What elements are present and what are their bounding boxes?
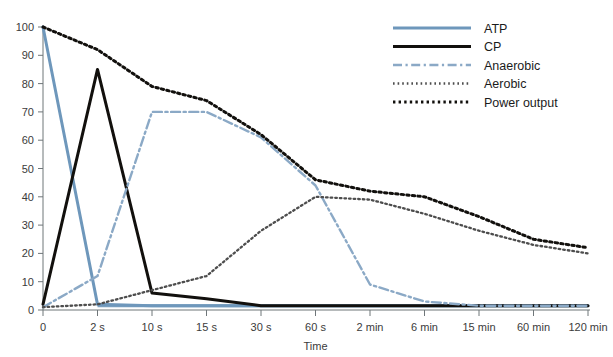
- y-axis-ticks: 0102030405060708090100: [16, 21, 43, 316]
- x-axis-title: Time: [303, 340, 327, 352]
- y-tick-label: 70: [22, 106, 34, 118]
- x-tick-label: 10 s: [142, 321, 163, 333]
- x-tick-label: 60 min: [517, 321, 550, 333]
- y-tick-label: 30: [22, 219, 34, 231]
- y-tick-label: 0: [28, 304, 34, 316]
- legend-label-aerobic: Aerobic: [484, 77, 526, 91]
- y-tick-label: 40: [22, 191, 34, 203]
- legend-label-anaerobic: Anaerobic: [484, 59, 540, 73]
- x-tick-label: 60 s: [305, 321, 326, 333]
- x-axis-ticks: 02 s10 s15 s30 s60 s2 min6 min15 min60 m…: [40, 310, 608, 333]
- x-tick-label: 120 min: [568, 321, 607, 333]
- y-tick-label: 10: [22, 276, 34, 288]
- chart-legend: ATPCPAnaerobicAerobicPower output: [393, 22, 558, 110]
- energy-systems-chart: 0102030405060708090100 02 s10 s15 s30 s6…: [0, 0, 613, 357]
- y-tick-label: 50: [22, 163, 34, 175]
- series-line-aerobic: [43, 197, 588, 307]
- y-tick-label: 100: [16, 21, 34, 33]
- y-tick-label: 20: [22, 247, 34, 259]
- x-tick-label: 6 min: [411, 321, 438, 333]
- legend-label-atp: ATP: [484, 22, 507, 36]
- y-tick-label: 80: [22, 78, 34, 90]
- x-tick-label: 0: [40, 321, 46, 333]
- x-tick-label: 2 min: [357, 321, 384, 333]
- x-tick-label: 15 min: [462, 321, 495, 333]
- x-tick-label: 30 s: [251, 321, 272, 333]
- x-tick-label: 2 s: [90, 321, 105, 333]
- y-tick-label: 90: [22, 49, 34, 61]
- legend-label-power-output: Power output: [484, 96, 558, 110]
- y-tick-label: 60: [22, 134, 34, 146]
- legend-label-cp: CP: [484, 40, 501, 54]
- chart-plot-area: 0102030405060708090100 02 s10 s15 s30 s6…: [0, 0, 613, 357]
- series-line-anaerobic: [43, 112, 588, 307]
- x-tick-label: 15 s: [196, 321, 217, 333]
